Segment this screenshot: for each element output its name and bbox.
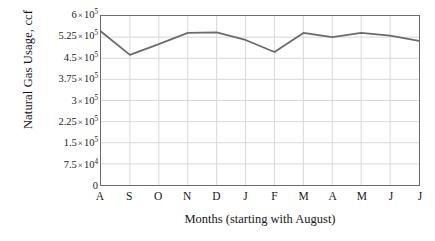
y-axis-tick-label: 1.5×105 — [28, 138, 98, 149]
line-chart: Natural Gas Usage, ccf 07.5×1041.5×1052.… — [0, 0, 435, 241]
data-series-line — [101, 16, 419, 185]
x-axis-title: Months (starting with August) — [100, 212, 420, 227]
x-axis-tick-label: S — [126, 190, 132, 203]
x-axis-tick-label: M — [299, 190, 309, 203]
y-axis-tick-labels: 07.5×1041.5×1052.25×1053×1053.75×1054.5×… — [28, 0, 98, 241]
plot-area — [100, 15, 420, 186]
y-axis-tick-label: 7.5×104 — [28, 160, 98, 171]
x-axis-tick-label: M — [357, 190, 367, 203]
x-axis-tick-label: D — [212, 190, 220, 203]
x-axis-tick-label: J — [389, 190, 393, 203]
x-axis-tick-labels: ASONDJFMAMJJ — [100, 190, 420, 206]
x-axis-tick-label: J — [418, 190, 422, 203]
y-axis-tick-label: 4.5×105 — [28, 53, 98, 64]
y-axis-tick-label: 5.25×105 — [28, 31, 98, 42]
x-axis-tick-label: A — [96, 190, 104, 203]
x-axis-tick-label: A — [329, 190, 337, 203]
y-axis-tick-label: 6×105 — [28, 10, 98, 21]
y-axis-tick-label: 3×105 — [28, 96, 98, 107]
x-axis-tick-label: O — [154, 190, 162, 203]
x-axis-tick-label: J — [243, 190, 247, 203]
y-axis-tick-label: 0 — [28, 181, 98, 192]
x-axis-tick-label: F — [271, 190, 277, 203]
y-axis-tick-label: 2.25×105 — [28, 117, 98, 128]
y-axis-tick-label: 3.75×105 — [28, 74, 98, 85]
x-axis-tick-label: N — [183, 190, 191, 203]
